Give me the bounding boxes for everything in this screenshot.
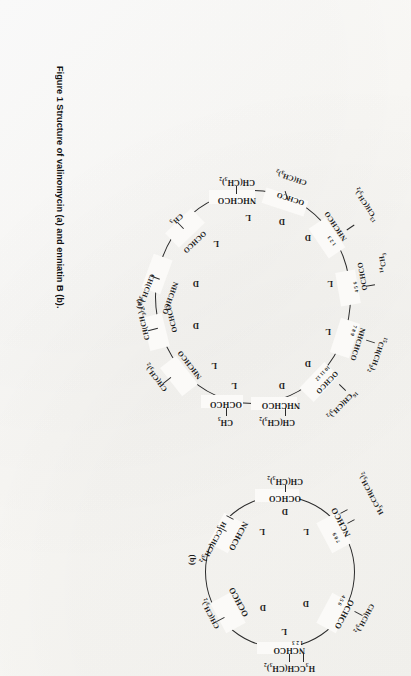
config-b2: D: [260, 603, 266, 612]
panel-label-b: (b): [188, 555, 196, 566]
unit-b4-backbone: OCHCO: [269, 494, 301, 502]
scanned-figure: H3CCH(CH3)2 NCHCO 1 2 3 L OCHCO CH(CH3)2…: [0, 0, 411, 676]
bond-a4-side: [339, 384, 346, 391]
side-b6: CH(CH3)2: [352, 602, 375, 635]
side-a1-numbered: 13CH(CH3)2: [351, 186, 382, 224]
figure-caption: Figure 1 Structure of valinomycin (a) an…: [55, 66, 65, 308]
config-b5: L: [303, 527, 309, 536]
config-a1: D: [305, 233, 311, 242]
side-a5: CH(CH3)2: [259, 416, 295, 426]
config-b1: L: [281, 627, 287, 636]
config-a8: D: [193, 321, 199, 330]
side-b5: H3CCH(CH3)2: [357, 471, 387, 516]
bond-a6-side: [226, 408, 227, 416]
config-b4: D: [282, 507, 288, 516]
structure-enniatin-b: H3CCH(CH3)2 NCHCO 1 2 3 L OCHCO CH(CH3)2…: [173, 456, 393, 676]
bond-a11-side: [236, 186, 237, 194]
config-a5: D: [279, 381, 285, 390]
unit-b1-backbone: NCHCO: [273, 646, 305, 654]
config-a4: D: [305, 359, 311, 368]
bond-b1-c: [289, 654, 290, 662]
config-a10: L: [213, 239, 219, 248]
config-a3: L: [325, 327, 331, 336]
side-a12: CH(CH3)2: [275, 167, 309, 185]
config-b3: L: [259, 527, 265, 536]
side-b4: CH(CH3)2: [267, 475, 303, 485]
panel-label-a: (a): [136, 299, 144, 309]
bond-b5-c: [340, 509, 348, 514]
unit-b1-n-methyl: H3CCH(CH3)2: [264, 662, 315, 672]
config-a12: D: [279, 217, 285, 226]
config-b6: D: [303, 599, 309, 608]
side-a11: CH(CH3)2: [219, 176, 255, 186]
config-a9: D: [193, 279, 199, 288]
bond-a3-side: [366, 340, 375, 344]
bond-b5-n: [347, 519, 355, 524]
config-a6: L: [231, 381, 237, 390]
bond-b4-side: [285, 485, 286, 492]
side-a2-numbered: 14CH3: [376, 252, 390, 273]
bond-a2-side: [366, 284, 375, 287]
config-a11: L: [245, 213, 251, 222]
structure-valinomycin-a: CH(CH3)2 NHCHCO D CH3 OCHCO L NHCHCO CH(…: [113, 134, 403, 454]
unit-a6-backbone: OCHCO: [210, 400, 242, 408]
unit-a11-backbone: NHCHCO: [218, 196, 256, 204]
side-a4-numbered: 16CH(CH3)2: [324, 386, 359, 421]
config-a2: L: [327, 279, 333, 288]
unit-a5-backbone: NHCHCO: [262, 401, 300, 409]
bond-a1-side: [346, 225, 354, 231]
unit-b1-numbers: 1 2 3: [292, 640, 303, 645]
config-a7: L: [211, 361, 217, 370]
side-a6: CH3: [218, 416, 233, 426]
bond-b1-n: [303, 654, 304, 662]
